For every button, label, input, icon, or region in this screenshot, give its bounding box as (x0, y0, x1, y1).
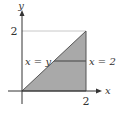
x-equals-y-label: x = y (25, 56, 51, 67)
x-equals-2-label: x = 2 (89, 56, 116, 67)
x-axis-label: x (105, 85, 111, 96)
y-axis-label: y (17, 0, 24, 11)
x-tick-label: 2 (83, 95, 90, 108)
region-diagram: y x 2 2 x = y x = 2 (0, 0, 126, 116)
x-axis-arrow-icon (96, 89, 102, 94)
y-tick-label: 2 (11, 25, 18, 38)
